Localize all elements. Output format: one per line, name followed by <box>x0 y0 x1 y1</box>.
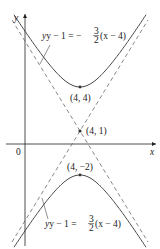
hyperbola-upper-branch <box>14 15 146 87</box>
vertex-lower-point <box>79 174 82 177</box>
lower-label-leader <box>42 198 48 219</box>
hyperbola-diagram: y x 0 (4, 4) (4, 1) (4, −2) yy − 1 = − 3… <box>0 0 160 249</box>
svg-text:2: 2 <box>94 35 99 45</box>
svg-text:(x − 4): (x − 4) <box>100 31 126 42</box>
vertex-upper-point <box>79 86 82 89</box>
vertex-upper-label: (4, 4) <box>70 93 91 104</box>
svg-text:(x − 4): (x − 4) <box>95 219 121 230</box>
lower-asymptote-label: yy − 1 = 3 2 (x − 4) <box>44 214 121 233</box>
hyperbola-lower-branch <box>14 175 146 247</box>
center-point <box>78 129 81 132</box>
svg-text:yy − 1 =: yy − 1 = <box>44 219 77 229</box>
origin-label: 0 <box>16 147 21 157</box>
x-axis-label: x <box>149 147 155 157</box>
center-label: (4, 1) <box>86 126 107 137</box>
upper-asymptote-label: yy − 1 = − 3 2 (x − 4) <box>41 26 126 45</box>
svg-text:yy − 1 = −: yy − 1 = − <box>41 31 81 41</box>
vertex-lower-label: (4, −2) <box>67 162 93 173</box>
svg-text:2: 2 <box>89 223 94 233</box>
